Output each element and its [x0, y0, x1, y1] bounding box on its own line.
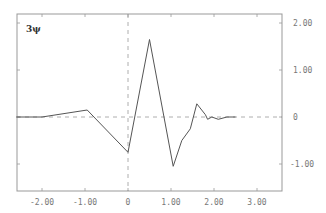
y-axis-tick-labels: 2.001.000-1.00	[290, 19, 314, 169]
data-series-line	[16, 40, 235, 167]
x-axis-tick-labels: -2.00-1.0001.002.003.00	[30, 198, 267, 207]
x-tick-label: 1.00	[161, 198, 180, 207]
x-tick-label: 0	[126, 198, 131, 207]
y-tick-label: -1.00	[290, 160, 314, 169]
y-tick-label: 0	[293, 113, 298, 122]
x-tick-label: 2.00	[204, 198, 223, 207]
x-tick-label: -1.00	[73, 198, 97, 207]
chart: -2.00-1.0001.002.003.00 2.001.000-1.00 3…	[0, 0, 326, 213]
y-tick-label: 2.00	[293, 19, 312, 28]
y-axis-label: 3ψ	[26, 24, 41, 34]
x-tick-label: -2.00	[30, 198, 54, 207]
y-tick-label: 1.00	[293, 66, 312, 75]
x-tick-label: 3.00	[247, 198, 266, 207]
